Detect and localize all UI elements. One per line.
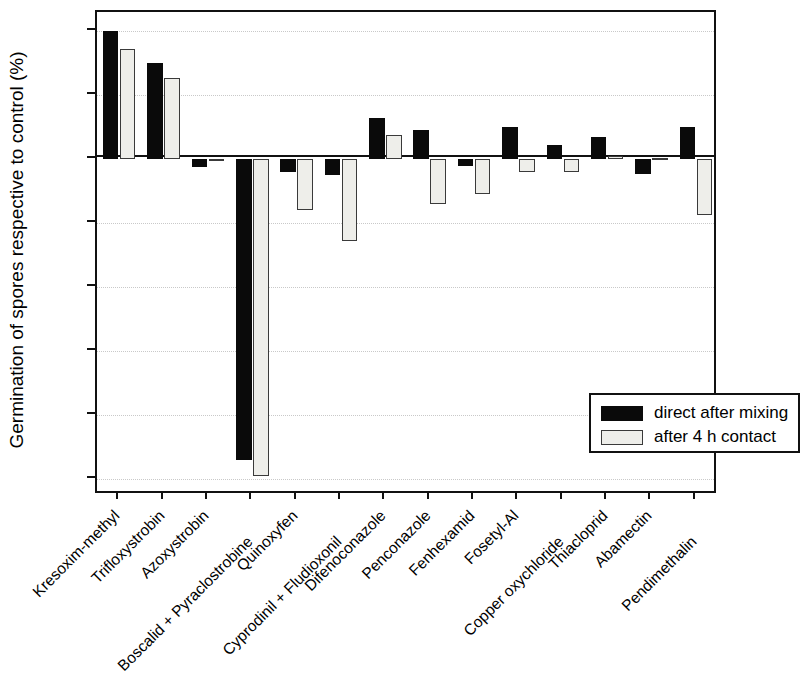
y-tick-mark bbox=[87, 28, 95, 30]
bar bbox=[192, 159, 208, 167]
x-tick-label: Difenoconazole bbox=[165, 507, 390, 675]
bar bbox=[413, 130, 429, 159]
y-tick-mark bbox=[87, 220, 95, 222]
bar bbox=[120, 49, 136, 159]
bar bbox=[253, 159, 269, 476]
x-tick-label: Abamectin bbox=[431, 507, 656, 675]
x-tick-mark bbox=[249, 491, 251, 499]
bar bbox=[386, 135, 402, 159]
x-tick-mark bbox=[205, 491, 207, 499]
bar bbox=[103, 31, 119, 159]
x-tick-label: Copper oxychloride bbox=[342, 533, 567, 675]
x-tick-label: Penconazole bbox=[209, 507, 434, 675]
bar bbox=[342, 159, 358, 241]
x-tick-label: Quinoxyfen bbox=[76, 507, 301, 675]
bar bbox=[635, 159, 651, 173]
bar bbox=[236, 159, 252, 460]
x-tick-mark bbox=[515, 491, 517, 499]
x-tick-label: Azoxystrobin bbox=[0, 507, 212, 675]
y-tick-mark bbox=[87, 92, 95, 94]
y-tick-mark bbox=[87, 156, 95, 158]
bar bbox=[680, 127, 696, 159]
x-axis-line bbox=[95, 491, 716, 493]
bar bbox=[325, 159, 341, 175]
legend-swatch-black bbox=[601, 406, 643, 421]
bar bbox=[519, 159, 535, 172]
x-tick-label: Trifloxystrobin bbox=[0, 507, 168, 675]
x-tick-mark bbox=[471, 491, 473, 499]
x-tick-mark bbox=[427, 491, 429, 499]
x-tick-mark bbox=[604, 491, 606, 499]
x-tick-label: Boscalid + Pyraclostrobine bbox=[32, 533, 257, 675]
bar bbox=[652, 158, 668, 160]
legend-swatch-grey bbox=[601, 430, 643, 445]
x-tick-mark bbox=[338, 491, 340, 499]
bar bbox=[280, 159, 296, 172]
bar bbox=[591, 137, 607, 159]
y-tick-mark bbox=[87, 348, 95, 350]
bar bbox=[430, 159, 446, 204]
plot-area: direct after mixing after 4 h contact bbox=[95, 10, 716, 493]
bar bbox=[475, 159, 491, 194]
bar bbox=[608, 156, 624, 159]
x-tick-label: Fosetyl-Al bbox=[298, 507, 523, 675]
bar bbox=[547, 145, 563, 159]
x-tick-label: Cyprodinil + Fludioxonil bbox=[120, 533, 345, 675]
x-tick-mark bbox=[161, 491, 163, 499]
bar bbox=[297, 159, 313, 210]
x-tick-label: Kresoxim-methyl bbox=[0, 507, 124, 675]
x-tick-mark bbox=[116, 491, 118, 499]
bar bbox=[369, 118, 385, 160]
x-tick-mark bbox=[382, 491, 384, 499]
bar bbox=[697, 159, 713, 215]
bar bbox=[209, 159, 225, 161]
legend-label-direct-after-mixing: direct after mixing bbox=[654, 403, 788, 423]
x-tick-label: Fenhexamid bbox=[254, 507, 479, 675]
y-axis-title: Germination of spores respective to cont… bbox=[0, 0, 34, 500]
legend: direct after mixing after 4 h contact bbox=[589, 393, 800, 453]
x-tick-mark bbox=[693, 491, 695, 499]
y-tick-mark bbox=[87, 284, 95, 286]
legend-item-after-4h-contact: after 4 h contact bbox=[601, 426, 788, 448]
x-tick-label: Pendimethalin bbox=[475, 533, 700, 675]
bar bbox=[564, 159, 580, 172]
bar bbox=[164, 78, 180, 160]
x-tick-mark bbox=[294, 491, 296, 499]
bar bbox=[502, 127, 518, 159]
x-tick-mark bbox=[648, 491, 650, 499]
y-tick-mark bbox=[87, 476, 95, 478]
bar bbox=[458, 159, 474, 165]
x-tick-mark bbox=[560, 491, 562, 499]
y-tick-mark bbox=[87, 412, 95, 414]
x-tick-label: Thiacloprid bbox=[387, 507, 612, 675]
legend-item-direct-after-mixing: direct after mixing bbox=[601, 402, 788, 424]
legend-label-after-4h-contact: after 4 h contact bbox=[654, 427, 776, 447]
bar bbox=[147, 63, 163, 159]
